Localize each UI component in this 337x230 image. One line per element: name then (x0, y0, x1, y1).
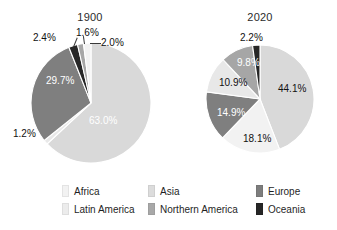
legend-item-africa: Africa (62, 185, 148, 197)
legend-item-latin-america: Latin America (62, 203, 148, 215)
legend-label-europe: Europe (268, 186, 300, 197)
legend-item-oceania: Oceania (256, 203, 305, 215)
slice-label-1900-asia: 63.0% (89, 116, 117, 126)
pie-1900-svg (30, 42, 152, 164)
slice-label-2020-oceania: 2.2% (240, 33, 263, 43)
legend-item-europe: Europe (256, 185, 305, 197)
leader-line-1900-africa (90, 43, 101, 44)
pie-chart-figure: 1900 2.4% 1.6% 2.0% 29.7% 63.0% 1.2% 202… (0, 0, 337, 230)
legend-swatch-europe-icon (256, 185, 263, 197)
slice-label-1900-africa: 2.0% (101, 38, 124, 48)
legend-label-africa: Africa (74, 186, 100, 197)
legend-swatch-asia-icon (148, 185, 155, 197)
slice-label-1900-europe: 29.7% (46, 76, 74, 86)
chart-title-2020: 2020 (238, 11, 282, 23)
legend-swatch-oceania-icon (256, 203, 263, 215)
slice-label-1900-oceania: 2.4% (33, 33, 56, 43)
legend-label-northern-america: Northern America (160, 204, 238, 215)
chart-title-1900: 1900 (68, 11, 112, 23)
legend-label-latin-america: Latin America (74, 204, 135, 215)
slice-label-2020-asia: 44.1% (278, 84, 306, 94)
slice-label-2020-europe: 14.9% (217, 108, 245, 118)
chart-legend: Africa Asia Europe Latin America Norther… (62, 182, 290, 218)
slice-label-1900-northern-america: 1.6% (76, 28, 99, 38)
slice-label-2020-northern-america: 9.8% (237, 58, 260, 68)
pie-1900 (30, 42, 152, 164)
legend-item-asia: Asia (148, 185, 256, 197)
legend-label-oceania: Oceania (268, 204, 305, 215)
legend-label-asia: Asia (160, 186, 179, 197)
slice-label-2020-latin-america: 10.9% (219, 78, 247, 88)
slice-label-2020-africa: 18.1% (243, 134, 271, 144)
legend-item-northern-america: Northern America (148, 203, 256, 215)
slice-label-1900-latin-america: 1.2% (13, 129, 36, 139)
legend-swatch-northern-america-icon (148, 203, 155, 215)
legend-swatch-africa-icon (62, 185, 69, 197)
legend-swatch-latin-america-icon (62, 203, 69, 215)
